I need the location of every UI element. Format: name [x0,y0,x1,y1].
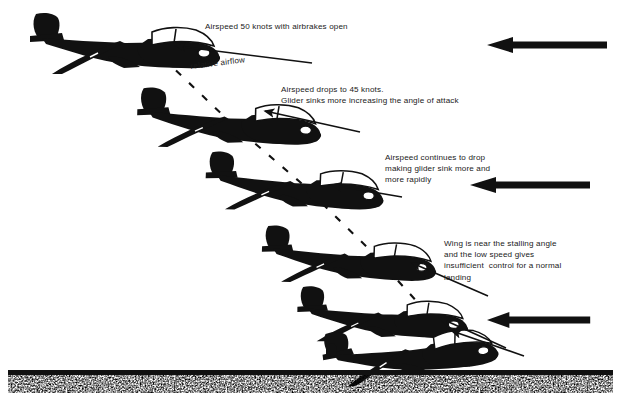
glider-position-4 [261,225,438,287]
glider-position-3 [204,151,385,216]
annotation-airspeed-50: Airspeed 50 knots with airbrakes open [205,21,348,32]
annotation-airspeed-continues-drop: Airspeed continues to drop making glider… [385,152,490,186]
diagram-canvas: Airspeed 50 knots with airbrakes open Ai… [0,0,621,418]
airflow-arrow-bottom [487,312,590,328]
ground-marker-object [326,343,337,357]
annotation-stalling-angle: Wing is near the stalling angle and the … [444,238,561,283]
annotation-airspeed-45: Airspeed drops to 45 knots. Glider sinks… [281,84,459,106]
glider-stall-sequence-illustration [0,0,621,418]
airflow-arrow-top [487,37,607,53]
ground-surface [8,370,613,393]
